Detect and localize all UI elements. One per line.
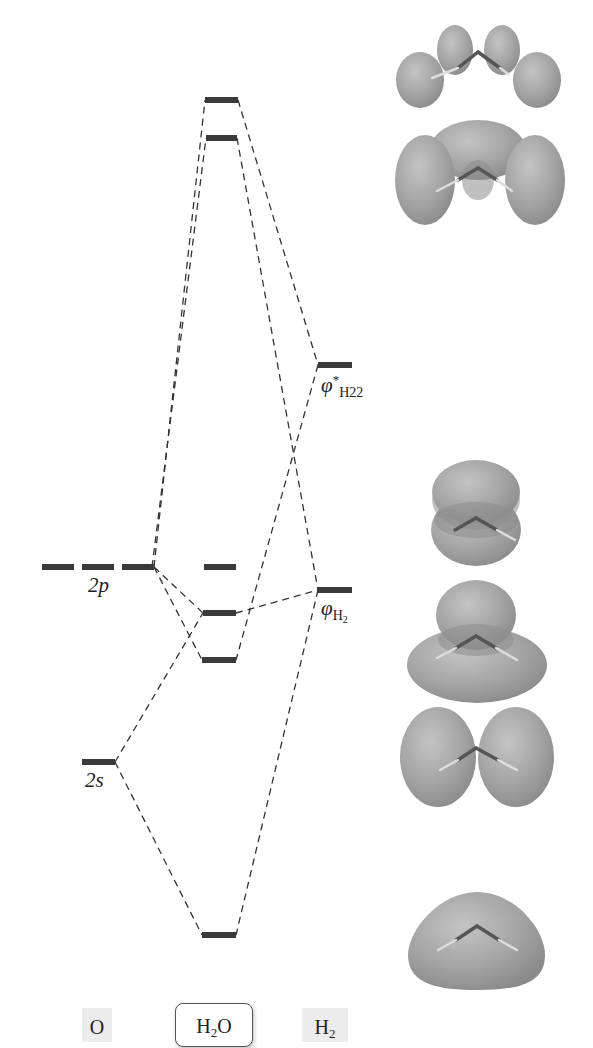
level-phi-h2 (318, 587, 352, 593)
orbital-image-bonding-3 (407, 580, 547, 703)
species-label-h2o: H2O (175, 1003, 253, 1047)
phi-symbol: φ (321, 596, 333, 620)
label-o-2s: 2s (85, 770, 104, 791)
h2-star-subscript: H22 (339, 385, 363, 400)
level-o-2p-3 (122, 564, 154, 570)
level-o-2s (82, 759, 115, 765)
species-label-h2: H2 (302, 1008, 348, 1042)
level-o-2p-2 (82, 564, 114, 570)
orbital-image-bonding-1 (408, 892, 545, 990)
h2-subscript: H2 (333, 608, 348, 623)
level-h2o-bonding-1 (202, 932, 236, 938)
label-o-2p: 2p (88, 575, 109, 596)
orbital-image-nonbonding-2p (431, 460, 521, 566)
orbital-image-antibonding-1 (395, 120, 565, 225)
label-phi-h2-star: φ*H22 (321, 373, 363, 400)
species-label-o: O (82, 1008, 112, 1042)
level-h2o-antibonding-1 (206, 135, 237, 141)
level-h2o-bonding-2 (202, 657, 236, 663)
level-h2o-nonbonding (204, 564, 236, 570)
phi-symbol: φ (321, 373, 333, 397)
level-h2o-antibonding-2 (205, 97, 238, 103)
level-o-2p-1 (42, 564, 74, 570)
label-phi-h2: φH2 (321, 598, 348, 625)
orbital-image-antibonding-2 (396, 25, 561, 108)
correlation-lines (115, 100, 318, 935)
level-phi-h2-star (318, 362, 352, 368)
mo-diagram (0, 0, 593, 1048)
orbital-image-bonding-2 (400, 707, 554, 807)
level-h2o-bonding-3 (203, 610, 236, 616)
